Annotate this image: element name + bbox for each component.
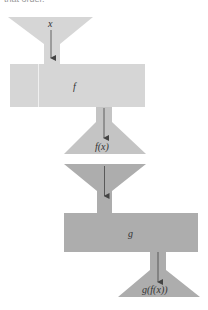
f-box <box>10 64 145 107</box>
machine-f: x f f(x) <box>8 17 146 154</box>
machine-g: g g(f(x)) <box>64 164 200 297</box>
g-input-funnel <box>64 164 146 214</box>
g-label: g <box>128 228 133 239</box>
g-output-label: g(f(x)) <box>142 284 168 296</box>
function-composition-diagram: x f f(x) g g(f(x)) <box>0 0 208 310</box>
f-input-label: x <box>47 18 53 29</box>
f-output-label: f(x) <box>95 141 110 153</box>
